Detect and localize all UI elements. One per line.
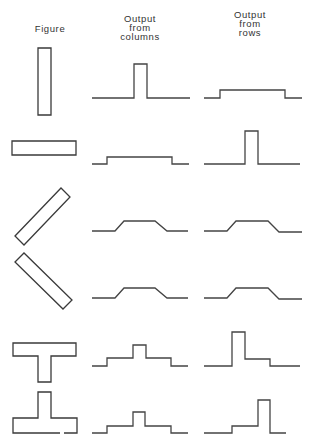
horizontal-bar-row-output [204,131,300,164]
diagonal-falling-row-output [204,288,302,299]
diagonal-rising-row-output [204,221,302,232]
vertical-bar-column-output [92,64,190,98]
horizontal-bar-column-output [92,157,189,164]
inverted-t-shape-figure [13,392,77,433]
row-horizontal-bar [12,131,300,164]
row-vertical-bar [38,48,302,115]
inverted-t-shape-row-output [204,400,286,433]
t-shape-figure [13,343,76,382]
diagonal-rising-column-output [92,221,188,231]
t-shape-row-output [204,332,300,366]
row-inverted-t-shape [13,392,286,433]
row-diagonal-rising [15,188,302,245]
diagonal-falling-column-output [92,288,188,298]
diagonal-falling-figure [15,253,72,309]
diagram-canvas [0,0,314,444]
horizontal-bar-figure [12,141,76,155]
diagonal-rising-figure [15,188,70,245]
t-shape-column-output [92,345,188,366]
vertical-bar-figure [38,48,51,115]
vertical-bar-row-output [204,90,302,98]
row-t-shape [13,332,300,382]
inverted-t-shape-column-output [92,412,188,433]
row-diagonal-falling [15,253,302,309]
